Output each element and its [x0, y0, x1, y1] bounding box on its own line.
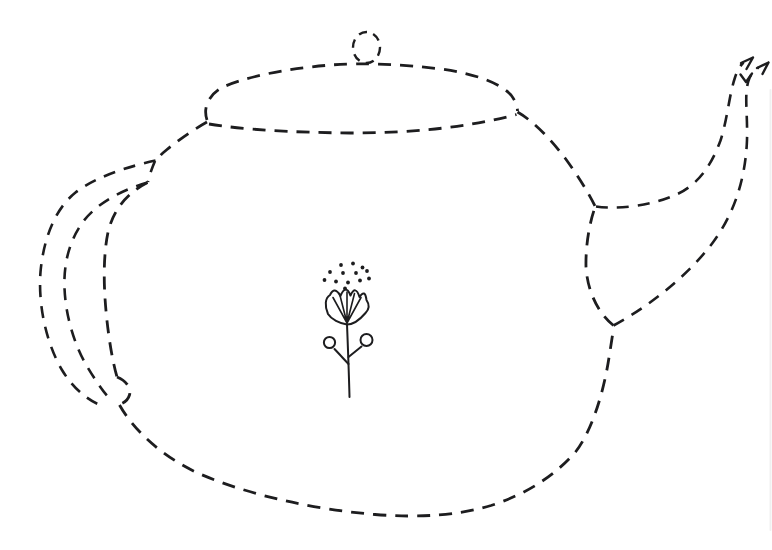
berry-circle-right [361, 334, 373, 346]
flower-fan-lines [333, 292, 361, 323]
flower-stem [347, 324, 350, 397]
pollen-dot [339, 263, 343, 267]
teapot-spout [596, 58, 769, 326]
body-right-side [586, 208, 614, 326]
flower-branch-right [349, 347, 362, 358]
arrowhead-lower [757, 63, 769, 75]
pollen-dot [354, 271, 358, 275]
teapot-handle [40, 161, 155, 407]
flower-branch-left [335, 349, 349, 364]
pollen-dot [358, 279, 362, 283]
lid-top-edge [206, 64, 518, 120]
spout-lower-curve [614, 68, 759, 326]
pollen-dot [361, 266, 365, 270]
body-left-shoulder [157, 122, 208, 161]
pollen-dot [346, 281, 350, 285]
handle-base-hook [115, 377, 130, 404]
pollen-dots [323, 262, 371, 291]
pollen-dot [328, 270, 332, 274]
pollen-dot [341, 271, 345, 275]
body-right-shoulder [518, 112, 596, 206]
knob-circle [353, 32, 380, 63]
flower-motif [323, 262, 373, 397]
arrowhead-upper [741, 58, 753, 70]
teapot-body [104, 112, 613, 516]
handle-outer-curve [40, 161, 155, 407]
lid-knob-icon [353, 32, 380, 63]
arrow-chevron [741, 74, 753, 83]
drawing-canvas [0, 0, 772, 550]
berry-circle-left [324, 337, 335, 348]
pollen-dot [365, 269, 369, 273]
lid-bottom-edge [209, 115, 517, 134]
teapot-lid [206, 64, 518, 133]
pollen-dot [334, 280, 338, 284]
body-left-side [104, 183, 147, 378]
spout-arrow-icon [741, 58, 769, 83]
handle-top-link [148, 161, 155, 182]
teapot-drawing [0, 0, 772, 550]
body-bottom [120, 328, 614, 516]
pollen-dot [367, 277, 371, 281]
pollen-dot [323, 278, 327, 282]
handle-inner-curve [64, 183, 147, 400]
pollen-dot [351, 262, 355, 266]
spout-upper-curve [596, 63, 744, 208]
